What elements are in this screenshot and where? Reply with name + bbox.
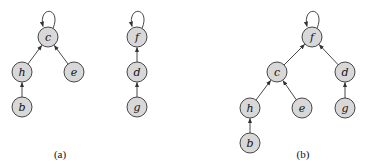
edge-h-to-c <box>256 80 271 100</box>
node-label: d <box>133 66 140 79</box>
node-e: e <box>64 62 84 82</box>
node-h: h <box>240 98 260 118</box>
self-loop-f <box>306 11 319 28</box>
node-b: b <box>240 133 260 153</box>
node-d: d <box>127 62 147 82</box>
node-label: e <box>299 102 306 115</box>
node-c: c <box>267 62 287 82</box>
disjoint-set-forest-diagram: chebfdg(a) fcdhegb(b) <box>0 0 369 168</box>
node-h: h <box>12 62 32 82</box>
node-label: g <box>341 102 348 115</box>
edge-c-to-f <box>284 44 305 65</box>
node-label: c <box>45 31 51 44</box>
node-c: c <box>38 11 58 47</box>
panel-a: chebfdg(a) <box>12 11 147 161</box>
node-d: d <box>335 62 355 82</box>
node-label: c <box>274 66 280 79</box>
node-e: e <box>292 98 312 118</box>
self-loop-c <box>42 11 55 28</box>
node-label: e <box>71 66 78 79</box>
edge-e-to-c <box>283 81 296 100</box>
edge-e-to-c <box>54 45 68 64</box>
panel-caption-b: (b) <box>297 148 310 161</box>
node-g: g <box>335 98 355 118</box>
edge-d-to-f <box>319 45 338 65</box>
node-f: f <box>127 11 147 47</box>
node-label: b <box>246 137 253 150</box>
node-g: g <box>127 97 147 117</box>
node-label: h <box>18 66 25 79</box>
node-b: b <box>12 97 32 117</box>
panel-b: fcdhegb(b) <box>240 11 355 161</box>
node-f: f <box>302 11 322 47</box>
node-label: g <box>133 101 140 114</box>
node-label: h <box>246 102 253 115</box>
self-loop-f <box>131 11 144 28</box>
edge-h-to-c <box>28 45 42 64</box>
panel-caption-a: (a) <box>54 148 67 161</box>
node-label: d <box>341 66 348 79</box>
node-label: b <box>18 101 25 114</box>
